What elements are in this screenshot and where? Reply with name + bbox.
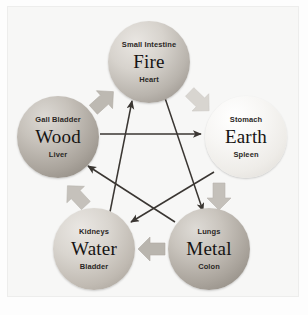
earth-bottom-organ: Spleen bbox=[233, 151, 258, 159]
element-node-wood[interactable]: Gall Bladder Wood Liver bbox=[17, 96, 99, 178]
metal-top-organ: Lungs bbox=[198, 228, 221, 236]
earth-top-organ: Stomach bbox=[230, 116, 262, 124]
earth-element-label: Earth bbox=[225, 127, 267, 146]
metal-element-label: Metal bbox=[186, 239, 231, 258]
arrow-fire-to-metal bbox=[165, 98, 203, 211]
water-top-organ: Kidneys bbox=[79, 228, 109, 236]
element-node-fire[interactable]: Small Intestine Fire Heart bbox=[108, 21, 190, 103]
element-node-metal[interactable]: Lungs Metal Colon bbox=[168, 208, 250, 290]
fire-bottom-organ: Heart bbox=[139, 76, 159, 84]
wood-bottom-organ: Liver bbox=[49, 151, 67, 159]
element-node-earth[interactable]: Stomach Earth Spleen bbox=[205, 96, 287, 178]
water-element-label: Water bbox=[71, 239, 117, 258]
block-arrow-earth-to-metal bbox=[207, 183, 231, 210]
five-elements-diagram: Small Intestine Fire Heart Gall Bladder … bbox=[0, 0, 308, 315]
fire-top-organ: Small Intestine bbox=[122, 41, 176, 49]
metal-bottom-organ: Colon bbox=[198, 263, 220, 271]
element-node-water[interactable]: Kidneys Water Bladder bbox=[53, 208, 135, 290]
fire-element-label: Fire bbox=[133, 52, 164, 71]
block-arrow-metal-to-water bbox=[138, 237, 165, 261]
arrow-water-to-fire bbox=[108, 101, 132, 222]
wood-element-label: Wood bbox=[35, 127, 81, 146]
water-bottom-organ: Bladder bbox=[80, 263, 109, 271]
diagram-frame: Small Intestine Fire Heart Gall Bladder … bbox=[0, 0, 308, 315]
wood-top-organ: Gall Bladder bbox=[35, 116, 80, 124]
